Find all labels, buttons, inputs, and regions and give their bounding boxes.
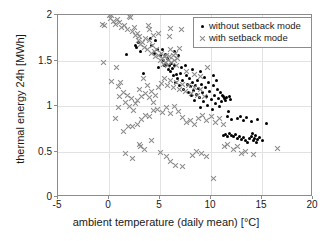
data-point: [206, 104, 209, 107]
data-point: [113, 64, 120, 71]
data-point: [134, 121, 141, 128]
data-point: [178, 26, 185, 33]
data-point: [181, 79, 184, 82]
data-point: [203, 153, 210, 160]
data-point: [212, 84, 215, 87]
data-point: [142, 112, 149, 119]
data-point: [183, 119, 190, 126]
data-point: [191, 121, 198, 128]
data-point: [182, 88, 185, 91]
data-point: [156, 48, 159, 51]
data-point: [163, 104, 170, 111]
data-point: [146, 26, 153, 33]
data-point: [144, 82, 151, 89]
data-point: [135, 46, 138, 49]
data-point: [176, 77, 179, 80]
data-point: [99, 21, 106, 28]
data-point: [138, 93, 145, 100]
data-point: [159, 109, 166, 116]
data-point: [163, 153, 170, 160]
data-point: [179, 72, 182, 75]
data-point: [195, 115, 202, 122]
data-point: [155, 84, 162, 91]
data-point: [136, 141, 143, 148]
data-point: [193, 148, 200, 155]
data-point: [251, 194, 258, 196]
data-point: [128, 95, 135, 102]
data-point: [136, 86, 143, 93]
data-point: [224, 141, 231, 148]
legend-item-with-setback: with setback mode: [197, 32, 308, 44]
data-point: [177, 54, 180, 57]
data-point: [197, 87, 200, 90]
data-point: [226, 115, 229, 118]
data-point: [208, 113, 215, 120]
data-point: [146, 113, 153, 120]
data-point: [236, 117, 239, 120]
data-point: [162, 59, 165, 62]
x-axis-tick-label: 10: [204, 199, 215, 210]
data-point: [210, 175, 217, 182]
data-point: [191, 68, 194, 71]
data-point: [191, 71, 198, 78]
data-point: [120, 89, 127, 96]
y-axis-label: thermal energy 24h [MWh]: [14, 9, 26, 189]
data-point: [137, 143, 144, 150]
data-point: [124, 92, 131, 99]
data-point: [199, 112, 206, 119]
data-point: [212, 74, 215, 77]
data-point: [140, 75, 147, 82]
data-point: [153, 52, 156, 55]
data-point: [198, 150, 205, 157]
data-point: [122, 150, 129, 157]
data-point: [193, 99, 196, 102]
data-point: [241, 194, 248, 196]
data-point: [130, 107, 137, 114]
data-point: [166, 33, 173, 40]
data-point: [126, 103, 133, 110]
data-point: [122, 99, 129, 106]
y-axis-tick: [54, 60, 57, 61]
data-point: [167, 158, 174, 165]
data-point: [214, 102, 217, 105]
data-point: [157, 66, 160, 69]
legend-cross-marker-icon: [197, 32, 209, 44]
data-point: [125, 123, 132, 130]
data-point: [203, 76, 206, 79]
data-point: [148, 88, 155, 95]
data-point: [200, 83, 203, 86]
data-point: [217, 97, 220, 100]
data-point: [154, 106, 161, 113]
data-point: [127, 15, 134, 21]
data-point: [129, 123, 136, 130]
x-axis-label: ambient temperature (daily mean) [°C]: [0, 216, 332, 228]
y-axis-tick: [54, 14, 57, 15]
data-point: [139, 50, 142, 53]
data-point: [131, 24, 138, 31]
data-point: [238, 150, 245, 157]
y-axis-tick: [54, 151, 57, 152]
data-point: [175, 73, 178, 76]
data-point: [189, 85, 192, 88]
data-point: [220, 121, 227, 128]
x-axis-tick-label: 15: [255, 199, 266, 210]
data-point: [163, 64, 166, 67]
data-point: [112, 115, 119, 122]
data-point: [202, 100, 205, 103]
data-point: [174, 81, 177, 84]
data-point: [142, 35, 149, 42]
data-point: [115, 104, 122, 111]
data-point: [154, 39, 157, 42]
data-point: [124, 26, 131, 33]
data-point: [184, 64, 187, 67]
data-point: [221, 143, 228, 150]
data-point: [134, 97, 141, 104]
data-point: [150, 44, 153, 47]
data-point: [114, 16, 121, 23]
data-point: [205, 95, 208, 98]
data-point: [169, 70, 172, 73]
data-point: [242, 148, 249, 155]
data-point: [152, 92, 159, 99]
data-point: [138, 116, 145, 123]
data-point: [192, 89, 195, 92]
